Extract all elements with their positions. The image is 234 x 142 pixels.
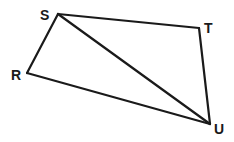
vertex-label-t: T bbox=[204, 20, 213, 36]
edge-ur bbox=[27, 73, 210, 124]
quadrilateral-figure: S T U R bbox=[0, 0, 234, 142]
diagram-canvas: S T U R bbox=[0, 0, 234, 142]
edge-st bbox=[58, 14, 199, 28]
edges-group bbox=[27, 14, 210, 124]
vertex-label-r: R bbox=[11, 67, 21, 83]
vertex-label-u: U bbox=[214, 121, 224, 137]
edge-su bbox=[58, 14, 210, 124]
edge-tu bbox=[199, 28, 210, 124]
vertex-label-s: S bbox=[40, 7, 49, 23]
